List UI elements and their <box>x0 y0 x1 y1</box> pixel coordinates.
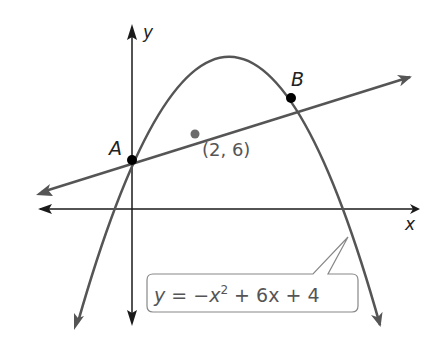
x-axis-label: x <box>404 214 416 234</box>
equation-text: y = −x2 + 6x + 4 <box>153 283 319 306</box>
point-b-label: B <box>291 68 304 90</box>
equation-callout: y = −x2 + 6x + 4 <box>147 237 358 312</box>
point-a <box>127 155 137 165</box>
point-given-label: (2, 6) <box>202 139 250 160</box>
point-given <box>191 130 200 139</box>
graph-canvas: y x A B (2, 6) y = −x2 + 6x + 4 <box>0 0 432 353</box>
point-b <box>286 93 296 103</box>
y-axis-label: y <box>142 22 154 42</box>
point-a-label: A <box>107 137 122 159</box>
line-curve <box>42 77 410 192</box>
